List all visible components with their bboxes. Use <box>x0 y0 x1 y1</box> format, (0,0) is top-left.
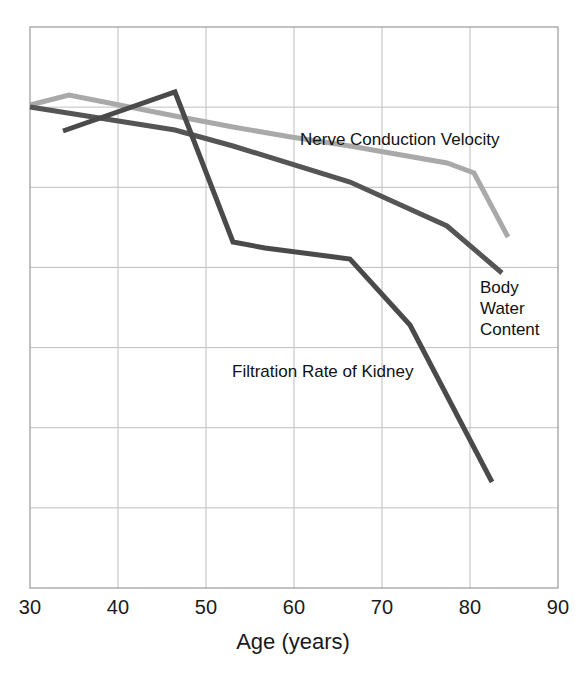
x-tick-60: 60 <box>264 596 324 619</box>
series-label-filtration-rate-of-kidney: Filtration Rate of Kidney <box>232 361 413 382</box>
series-label-body-water-content-line3: Content <box>480 320 540 339</box>
series-label-body-water-content-line1: Body <box>480 278 519 297</box>
x-tick-70: 70 <box>352 596 412 619</box>
x-tick-30: 30 <box>0 596 60 619</box>
line-chart: 30405060708090 Age (years) Nerve Conduct… <box>0 0 586 685</box>
x-tick-90: 90 <box>528 596 586 619</box>
series-label-body-water-content: BodyWaterContent <box>480 277 540 340</box>
series-label-nerve-conduction-velocity: Nerve Conduction Velocity <box>300 129 499 150</box>
series-label-body-water-content-line2: Water <box>480 299 525 318</box>
x-tick-40: 40 <box>88 596 148 619</box>
x-tick-80: 80 <box>440 596 500 619</box>
chart-canvas <box>0 0 586 685</box>
x-axis-title: Age (years) <box>0 629 586 655</box>
x-tick-50: 50 <box>176 596 236 619</box>
